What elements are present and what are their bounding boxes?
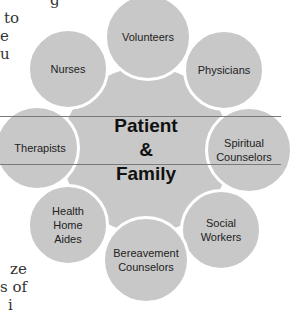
center-label: Patient & Family <box>114 114 177 186</box>
node-label: Therapists <box>14 141 65 155</box>
node-label: Physicians <box>198 63 251 77</box>
node-nurses: Nurses <box>27 28 109 110</box>
background-text-bottom: ze s of i <box>0 260 27 314</box>
horizontal-rule-top <box>0 116 281 117</box>
node-bereavement-counselors: Bereavement Counselors <box>102 216 190 304</box>
node-health-home-aides: Health Home Aides <box>27 184 109 266</box>
horizontal-rule-bottom <box>0 164 281 165</box>
node-physicians: Physicians <box>183 29 265 111</box>
node-spiritual-counselors: Spiritual Counselors <box>205 106 293 194</box>
bg-line: ze <box>0 260 27 278</box>
node-social-workers: Social Workers <box>180 189 262 271</box>
node-volunteers: Volunteers <box>104 0 192 81</box>
node-label: Spiritual Counselors <box>216 136 272 164</box>
bg-line: g <box>0 0 60 9</box>
bg-line: to <box>0 9 60 27</box>
node-label: Health Home Aides <box>52 204 84 246</box>
node-label: Nurses <box>51 62 86 76</box>
bg-line: s of <box>0 278 27 296</box>
node-label: Volunteers <box>122 30 174 44</box>
node-label: Social Workers <box>201 216 242 244</box>
node-label: Bereavement Counselors <box>113 246 178 274</box>
bg-line: i <box>0 296 27 314</box>
